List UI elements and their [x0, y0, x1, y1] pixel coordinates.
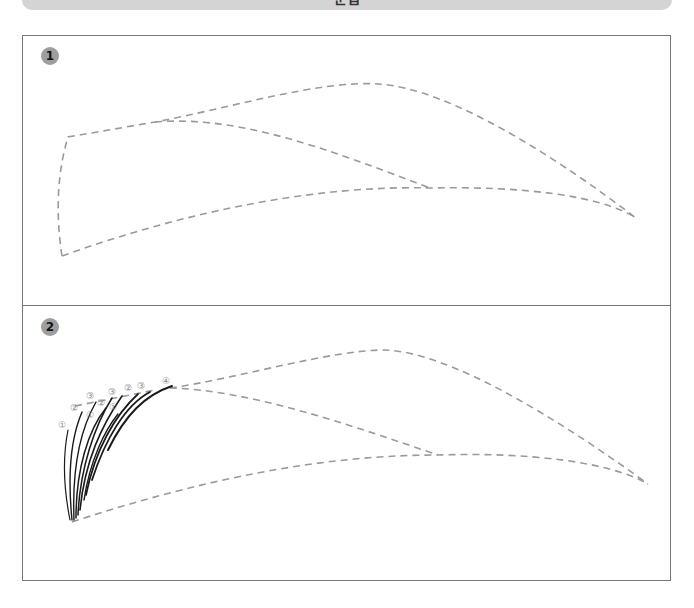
stroke-label: ②: [97, 398, 105, 408]
hair-strokes: [64, 386, 172, 520]
stroke-label: ②: [124, 383, 132, 393]
stroke-label: ①: [58, 420, 66, 430]
panel-2-eyebrow-outline: [72, 350, 648, 522]
stroke-label: ③: [137, 381, 145, 391]
stroke-label: ①: [109, 402, 117, 412]
stroke-label: ③: [86, 391, 94, 401]
panel-1-eyebrow-outline: [58, 84, 636, 256]
eyebrow-diagrams: ① ② ③ ① ② ③ ① ② ③ ④: [0, 0, 694, 608]
stroke-label: ③: [108, 387, 116, 397]
stroke-label: ④: [162, 376, 170, 386]
stroke-label: ①: [86, 410, 94, 420]
stroke-label: ②: [70, 403, 78, 413]
